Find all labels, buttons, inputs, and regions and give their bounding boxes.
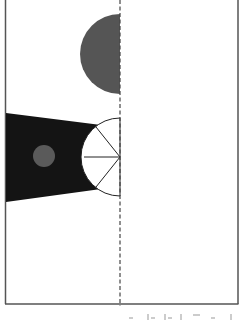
bottom-marks: [129, 314, 231, 320]
half-circle-shape: [80, 14, 120, 94]
small-circle-shape: [33, 145, 55, 167]
diagram-canvas: [0, 0, 243, 321]
